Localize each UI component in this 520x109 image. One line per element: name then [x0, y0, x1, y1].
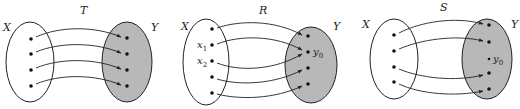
- codomain-label-Y: Y: [511, 18, 520, 31]
- domain-point: [392, 33, 396, 37]
- domain-point: [210, 27, 214, 31]
- domain-label-X: X: [180, 20, 190, 33]
- domain-point: [392, 80, 396, 84]
- codomain-point: [125, 52, 129, 56]
- codomain-point: [306, 66, 310, 70]
- domain-point-x1: [210, 43, 214, 47]
- codomain-set-Y: [102, 22, 152, 102]
- function-label-T: T: [80, 4, 89, 17]
- codomain-set-Y: [462, 19, 512, 99]
- codomain-point: [487, 40, 491, 44]
- codomain-point-y0: [488, 58, 491, 61]
- domain-point: [29, 84, 33, 88]
- domain-point: [392, 49, 396, 53]
- codomain-point: [487, 87, 491, 91]
- codomain-point-y0: [306, 50, 310, 54]
- domain-point: [210, 75, 214, 79]
- domain-point: [29, 52, 33, 56]
- arrow-icon: [217, 86, 302, 98]
- function-mapping-diagrams: T X Y: [0, 0, 520, 109]
- arrow-icon: [217, 23, 302, 35]
- codomain-point: [125, 36, 129, 40]
- domain-label-X: X: [2, 21, 12, 34]
- domain-set-X: [6, 22, 54, 102]
- codomain-point: [306, 34, 310, 38]
- codomain-point: [125, 84, 129, 88]
- function-label-S: S: [440, 1, 448, 14]
- diagram-T: T X Y: [2, 4, 160, 102]
- domain-point-x2: [210, 59, 214, 63]
- codomain-point: [306, 82, 310, 86]
- domain-point: [210, 91, 214, 95]
- domain-point: [29, 68, 33, 72]
- codomain-label-Y: Y: [333, 20, 342, 33]
- codomain-set-Y: [285, 27, 337, 103]
- function-label-R: R: [258, 4, 267, 17]
- domain-point: [392, 65, 396, 69]
- domain-label-X: X: [361, 18, 371, 31]
- codomain-point: [487, 71, 491, 75]
- diagram-R: R X Y x1 x2 y0: [180, 4, 342, 105]
- domain-set-X: [370, 19, 418, 99]
- codomain-point: [487, 23, 491, 27]
- diagram-S: S X Y y0: [361, 1, 520, 99]
- codomain-label-Y: Y: [151, 21, 160, 34]
- codomain-point: [125, 68, 129, 72]
- domain-point: [29, 37, 33, 41]
